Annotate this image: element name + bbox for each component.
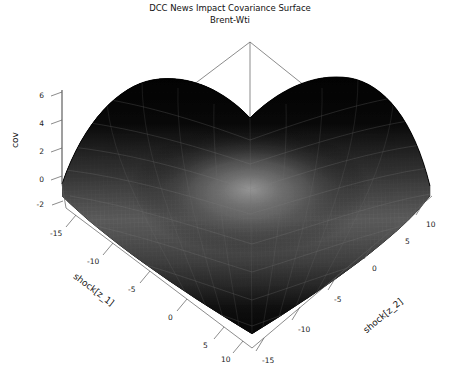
plot-canvas: DCC News Impact Covariance Surface Brent… xyxy=(0,0,460,373)
x-tick-0: 0 xyxy=(168,313,173,322)
z-tick-2: 2 xyxy=(39,147,44,156)
y-tick-0: 0 xyxy=(372,264,377,273)
plot-title: DCC News Impact Covariance Surface xyxy=(149,3,311,13)
z-tick-4: 4 xyxy=(39,119,44,128)
x-axis-label: shock[z_1] xyxy=(72,271,116,308)
x-tick-neg10: -10 xyxy=(87,257,99,266)
z-axis-ticks xyxy=(51,92,63,205)
z-tick-0: 0 xyxy=(39,175,44,184)
y-tick-5: 5 xyxy=(405,237,410,246)
y-tick-neg10: -10 xyxy=(298,325,310,334)
persp-surface-plot: DCC News Impact Covariance Surface Brent… xyxy=(0,0,460,373)
y-tick-neg15: -15 xyxy=(262,356,274,365)
z-axis-label: cov xyxy=(10,131,20,147)
x-tick-5: 5 xyxy=(203,341,208,350)
z-tick-6: 6 xyxy=(39,91,44,100)
x-tick-neg15: -15 xyxy=(50,229,62,238)
z-axis: 6 4 2 0 -2 cov xyxy=(10,90,66,209)
y-axis-label: shock[z_2] xyxy=(361,296,404,335)
x-tick-10: 10 xyxy=(221,355,231,364)
x-tick-neg5: -5 xyxy=(128,285,136,294)
y-tick-neg5: -5 xyxy=(334,295,342,304)
z-tick-neg2: -2 xyxy=(37,200,45,209)
y-tick-10: 10 xyxy=(426,220,436,229)
plot-subtitle: Brent-Wti xyxy=(210,15,250,25)
